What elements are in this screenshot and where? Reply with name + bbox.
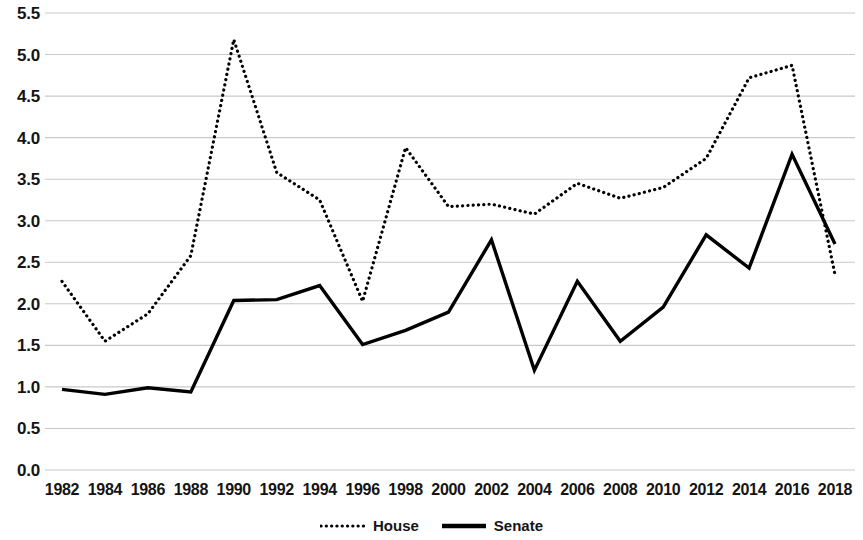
- y-axis-tick-label: 0.5: [2, 420, 40, 437]
- legend-swatch-dotted: [320, 520, 366, 532]
- y-axis-tick-label: 0.0: [2, 462, 40, 479]
- data-series-layer: [62, 40, 835, 395]
- chart-plot-area: [0, 0, 863, 540]
- chart-legend: HouseSenate: [0, 518, 863, 533]
- y-axis-tick-label: 3.0: [2, 213, 40, 230]
- y-axis-tick-label: 1.5: [2, 337, 40, 354]
- y-axis-tick-label: 3.5: [2, 171, 40, 188]
- y-axis-tick-label: 4.0: [2, 130, 40, 147]
- legend-item-senate: Senate: [441, 518, 543, 533]
- line-chart: 5.55.04.54.03.53.02.52.01.51.00.50.0 198…: [0, 0, 863, 540]
- legend-swatch-solid: [441, 520, 487, 532]
- y-axis-tick-label: 2.5: [2, 254, 40, 271]
- y-axis-tick-label: 2.0: [2, 296, 40, 313]
- series-line-house: [62, 40, 835, 342]
- legend-item-house: House: [320, 518, 419, 533]
- gridlines: [45, 13, 855, 470]
- legend-label: House: [373, 518, 419, 533]
- y-axis-tick-label: 5.5: [2, 5, 40, 22]
- y-axis-tick-label: 1.0: [2, 379, 40, 396]
- y-axis-tick-label: 4.5: [2, 88, 40, 105]
- y-axis: 5.55.04.54.03.53.02.52.01.51.00.50.0: [0, 0, 40, 480]
- legend-label: Senate: [494, 518, 543, 533]
- y-axis-tick-label: 5.0: [2, 47, 40, 64]
- x-axis-tick-label: 2018: [805, 482, 863, 498]
- x-axis: 1982198419861988199019921994199619982000…: [0, 482, 863, 510]
